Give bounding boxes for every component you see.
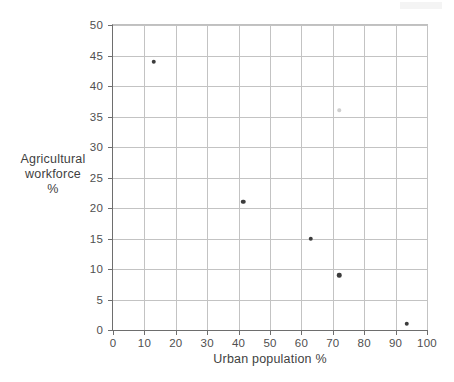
y-axis-tick — [108, 330, 113, 331]
data-point — [152, 59, 157, 64]
data-point — [309, 236, 314, 241]
x-axis-tick-label: 80 — [358, 337, 371, 349]
x-axis-tick-label: 60 — [295, 337, 308, 349]
x-axis-tick-label: 90 — [389, 337, 402, 349]
y-axis-tick-label: 15 — [90, 233, 103, 245]
scan-artifact — [400, 2, 442, 9]
y-axis-tick-label: 10 — [90, 263, 103, 275]
x-axis-tick — [333, 330, 334, 335]
scatter-chart-figure: 0102030405060708090100051015202530354045… — [0, 0, 454, 382]
gridline-vertical — [427, 25, 428, 330]
data-point — [241, 200, 246, 205]
x-axis-tick — [396, 330, 397, 335]
x-axis-tick-label: 50 — [263, 337, 276, 349]
x-axis-tick — [427, 330, 428, 335]
x-axis-tick — [364, 330, 365, 335]
y-axis-title-line-1: Agricultural — [4, 152, 102, 167]
data-point — [337, 273, 342, 278]
x-axis-title: Urban population % — [112, 352, 428, 366]
data-point — [337, 109, 341, 113]
x-axis-tick-label: 100 — [417, 337, 437, 349]
x-axis-tick — [239, 330, 240, 335]
plot-area: 0102030405060708090100051015202530354045… — [112, 24, 428, 331]
x-axis-tick-label: 10 — [138, 337, 151, 349]
y-axis-tick-label: 20 — [90, 202, 103, 214]
y-axis-tick-label: 5 — [96, 294, 103, 306]
x-axis-tick-label: 20 — [169, 337, 182, 349]
y-axis-tick-label: 35 — [90, 111, 103, 123]
x-axis-tick-label: 30 — [201, 337, 214, 349]
y-axis-tick-label: 0 — [96, 324, 103, 336]
x-axis-tick — [113, 330, 114, 335]
x-axis-tick-label: 70 — [326, 337, 339, 349]
x-axis-tick — [270, 330, 271, 335]
data-point — [404, 322, 409, 327]
x-axis-tick — [301, 330, 302, 335]
y-axis-title-line-2: workforce — [4, 167, 102, 182]
y-axis-tick-label: 50 — [90, 19, 103, 31]
y-axis-tick-label: 45 — [90, 50, 103, 62]
y-axis-tick-label: 40 — [90, 80, 103, 92]
x-axis-tick — [207, 330, 208, 335]
y-axis-title-line-3: % — [4, 182, 102, 197]
x-axis-tick — [144, 330, 145, 335]
x-axis-tick — [176, 330, 177, 335]
y-axis-title: Agricultural workforce % — [4, 152, 102, 197]
x-axis-tick-label: 0 — [110, 337, 117, 349]
data-points-layer — [113, 25, 427, 330]
x-axis-tick-label: 40 — [232, 337, 245, 349]
